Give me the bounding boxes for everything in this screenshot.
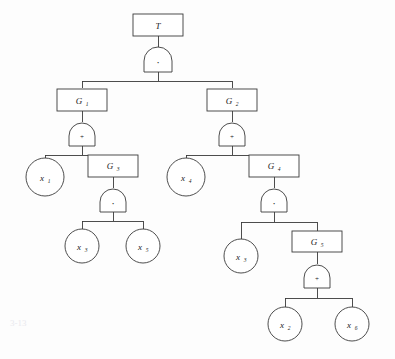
gate-G3-operator: ·	[111, 197, 115, 209]
node-x5-subscript: 5	[146, 247, 149, 253]
node-G1-label: G	[76, 96, 83, 106]
node-x4-label: x	[180, 173, 185, 183]
node-G4[interactable]: G 4	[249, 155, 299, 177]
node-x1-label: x	[39, 173, 44, 183]
node-x5-circle[interactable]	[126, 229, 160, 263]
node-x3-left-circle[interactable]	[65, 229, 99, 263]
node-x3-right[interactable]: x 3	[224, 239, 258, 273]
node-x4-circle[interactable]	[167, 158, 205, 196]
node-x5-label: x	[137, 242, 142, 252]
gate-G2-operator: +	[230, 133, 234, 141]
gate-T[interactable]: ·	[144, 47, 172, 72]
node-x3-right-subscript: 3	[243, 257, 247, 263]
node-x2[interactable]: x 2	[268, 307, 302, 341]
node-G5[interactable]: G 5	[292, 231, 342, 252]
gate-G5[interactable]: +	[304, 265, 330, 288]
node-G3[interactable]: G 3	[88, 155, 138, 177]
node-x1[interactable]: x 1	[26, 158, 64, 196]
tree-canvas: T · G 1 + G 2 + x 1	[0, 0, 395, 359]
node-x3-left-label: x	[76, 242, 81, 252]
node-G2-subscript: 2	[236, 101, 239, 107]
gate-G1[interactable]: +	[69, 123, 95, 146]
gate-G3[interactable]: ·	[100, 189, 126, 212]
gate-T-operator: ·	[156, 56, 160, 68]
edge-G3-bus	[82, 212, 143, 229]
fault-tree-diagram: 3-13 T	[0, 0, 395, 359]
node-x3-left-subscript: 3	[84, 247, 88, 253]
edge-G5-bus	[285, 288, 352, 307]
node-x3-left[interactable]: x 3	[65, 229, 99, 263]
node-G2[interactable]: G 2	[207, 89, 257, 111]
node-x4-subscript: 4	[189, 178, 192, 184]
gate-G4[interactable]: ·	[261, 189, 287, 212]
gate-G2[interactable]: +	[219, 123, 245, 146]
node-T[interactable]: T	[133, 14, 183, 36]
node-G5-label: G	[311, 237, 318, 247]
node-x4[interactable]: x 4	[167, 158, 205, 196]
node-x6[interactable]: x 6	[335, 307, 369, 341]
node-G1-subscript: 1	[86, 101, 89, 107]
node-G4-subscript: 4	[278, 166, 281, 172]
edge-T-bus	[82, 72, 232, 88]
gate-G4-operator: ·	[272, 197, 276, 209]
node-x2-circle[interactable]	[268, 307, 302, 341]
node-x5[interactable]: x 5	[126, 229, 160, 263]
node-G3-label: G	[107, 161, 114, 171]
node-G5-subscript: 5	[321, 242, 324, 248]
node-G3-subscript: 3	[116, 166, 120, 172]
node-G2-label: G	[226, 96, 233, 106]
node-G4-label: G	[268, 161, 275, 171]
node-x3-right-label: x	[235, 252, 240, 262]
node-x6-subscript: 6	[355, 325, 358, 331]
gate-G5-operator: +	[315, 275, 319, 283]
node-x2-subscript: 2	[288, 325, 291, 331]
node-x6-label: x	[346, 320, 351, 330]
gate-G1-operator: +	[80, 133, 84, 141]
node-x3-right-circle[interactable]	[224, 239, 258, 273]
node-x1-subscript: 1	[48, 178, 51, 184]
node-x6-circle[interactable]	[335, 307, 369, 341]
node-x2-label: x	[279, 320, 284, 330]
node-x1-circle[interactable]	[26, 158, 64, 196]
node-G1[interactable]: G 1	[57, 89, 107, 111]
